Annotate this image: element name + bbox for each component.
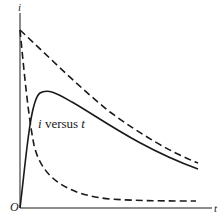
plot-canvas xyxy=(0,0,224,217)
slow-decay-dashed-curve xyxy=(20,30,198,163)
x-axis-label: t xyxy=(214,203,217,214)
current-time-diagram: i t O i versus t xyxy=(0,0,224,217)
origin-label: O xyxy=(10,201,19,213)
curve-label-var1: i xyxy=(38,116,42,131)
curve-label-var2: t xyxy=(81,116,85,131)
curve-label-word: versus xyxy=(45,116,78,131)
y-axis-label: i xyxy=(18,2,21,13)
curve-label: i versus t xyxy=(38,117,85,130)
i-versus-t-solid-curve xyxy=(20,91,198,208)
